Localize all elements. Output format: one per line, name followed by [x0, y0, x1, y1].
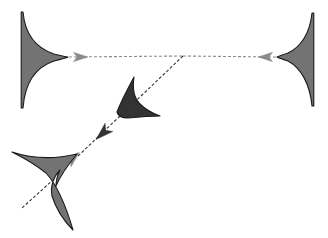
shape-flow-diagram: [0, 0, 328, 238]
diagram-canvas: [0, 0, 328, 238]
diagram-background: [0, 0, 328, 238]
